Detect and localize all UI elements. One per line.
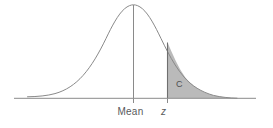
normal-distribution-figure: Mean z C	[0, 0, 273, 128]
shaded-region-label: C	[176, 79, 183, 89]
bell-curve-path	[28, 5, 238, 98]
z-axis-label: z	[161, 106, 166, 118]
mean-axis-label: Mean	[0, 106, 267, 118]
